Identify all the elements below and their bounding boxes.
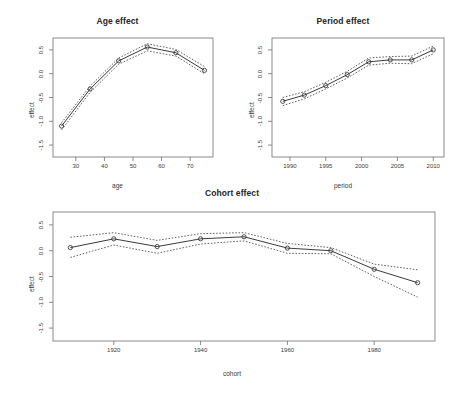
- y-tick-label: -0.5: [38, 271, 44, 281]
- x-tick-label: 2005: [391, 163, 404, 169]
- y-tick-label: -1.0: [38, 297, 44, 307]
- panel-cohort-effect: Cohort effect effect cohort 192019401960…: [10, 186, 454, 398]
- x-tick-label: 2000: [355, 163, 368, 169]
- y-tick-label: -1.0: [257, 116, 263, 126]
- y-tick-label: 0.0: [38, 70, 44, 78]
- period-effect-plot: [232, 14, 454, 199]
- apc-effect-figure: Age effect effect age 30405060700.50.0-0…: [0, 0, 459, 400]
- x-tick-label: 40: [101, 163, 108, 169]
- y-tick-label: -1.5: [38, 140, 44, 150]
- x-tick-label: 1995: [319, 163, 332, 169]
- y-tick-label: 0.0: [38, 247, 44, 255]
- x-tick-label: 1920: [107, 347, 120, 353]
- x-tick-label: 30: [73, 163, 80, 169]
- y-tick-label: -0.5: [38, 92, 44, 102]
- x-tick-label: 2010: [427, 163, 440, 169]
- x-tick-label: 70: [187, 163, 194, 169]
- y-tick-label: -0.5: [257, 92, 263, 102]
- panel-age-effect: Age effect effect age 30405060700.50.0-0…: [10, 14, 225, 199]
- x-tick-label: 1980: [368, 347, 381, 353]
- x-tick-label: 1990: [283, 163, 296, 169]
- y-tick-label: 0.5: [38, 221, 44, 229]
- panel-period-effect: Period effect effect period 199019952000…: [232, 14, 454, 199]
- age-effect-plot: [10, 14, 225, 199]
- cohort-effect-plot: [10, 186, 454, 398]
- x-tick-label: 60: [158, 163, 165, 169]
- x-tick-label: 1940: [194, 347, 207, 353]
- y-tick-label: -1.5: [257, 140, 263, 150]
- y-tick-label: 0.5: [38, 46, 44, 54]
- x-tick-label: 1960: [281, 347, 294, 353]
- y-tick-label: 0.5: [257, 46, 263, 54]
- y-tick-label: 0.0: [257, 70, 263, 78]
- y-tick-label: -1.0: [38, 116, 44, 126]
- x-tick-label: 50: [130, 163, 137, 169]
- y-tick-label: -1.5: [38, 323, 44, 333]
